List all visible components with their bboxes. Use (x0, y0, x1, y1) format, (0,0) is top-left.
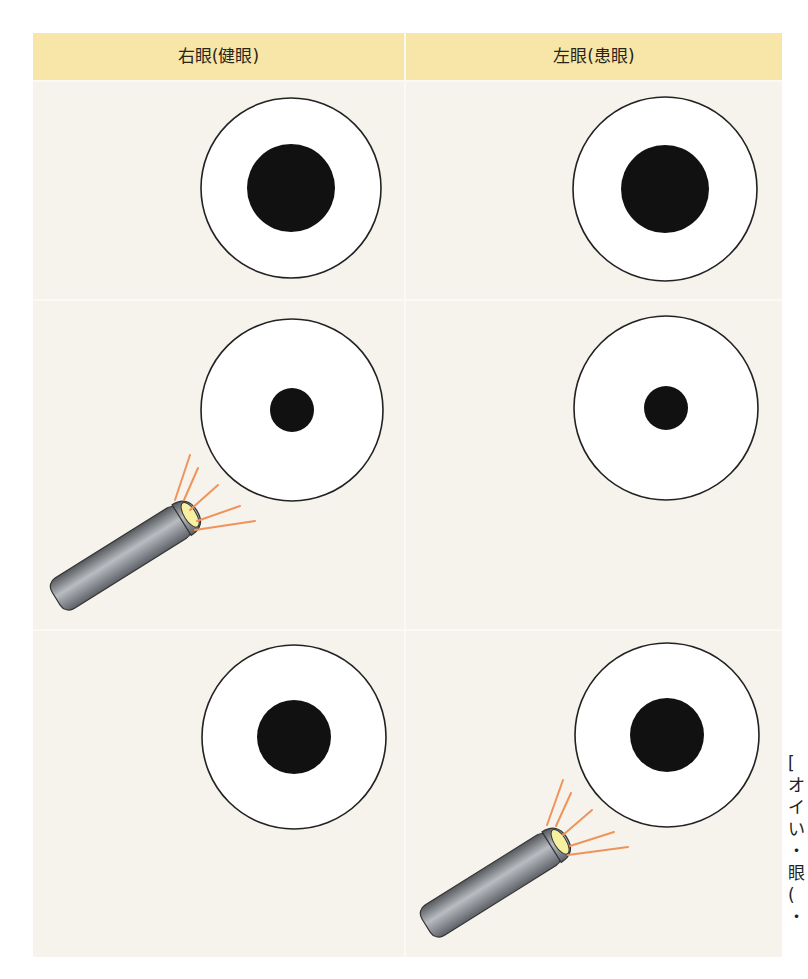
left-eye-row2 (574, 316, 758, 500)
eye-diagram (0, 0, 808, 979)
right-eye-row2 (201, 319, 383, 501)
pupil-small (644, 386, 688, 430)
pupil-large (247, 144, 335, 232)
left-eye-row3 (575, 643, 759, 827)
truncated-caption: [ オ イ い ・ 眼 ( ・ (788, 752, 808, 928)
pupil-large (621, 145, 709, 233)
pupil-medium (257, 700, 331, 774)
penlight-icon (417, 822, 577, 940)
right-eye-row3 (202, 645, 386, 829)
right-eye-row1 (201, 98, 381, 278)
pupil-small (270, 388, 314, 432)
penlight-icon (47, 495, 207, 613)
pupil-medium (630, 698, 704, 772)
left-eye-row1 (573, 97, 757, 281)
